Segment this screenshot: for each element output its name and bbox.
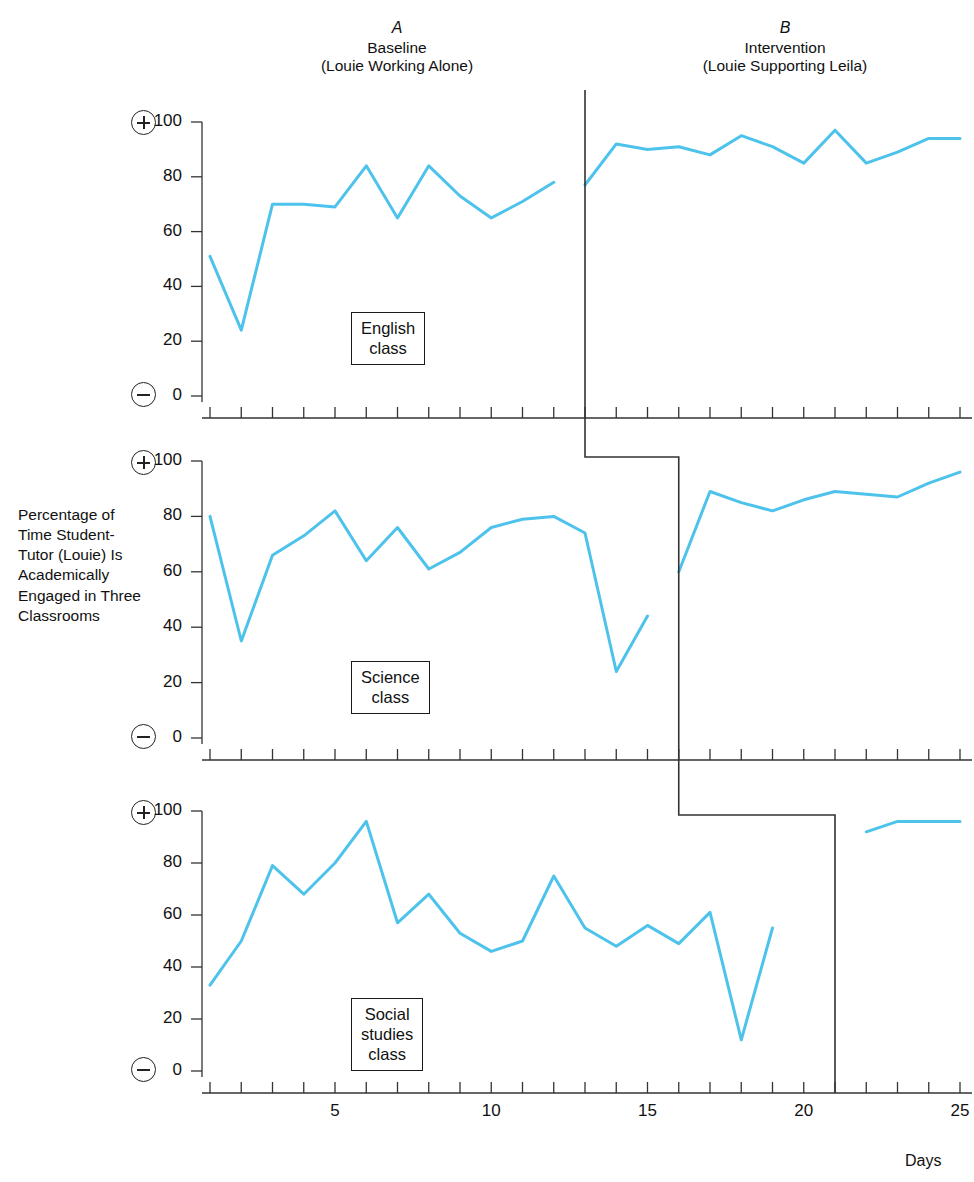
y-tick-label-20: 20 xyxy=(140,672,182,692)
y-tick-label-20: 20 xyxy=(140,330,182,350)
data-line-social-studies-class-intervention xyxy=(866,821,960,831)
y-tick-label-100: 100 xyxy=(140,450,182,470)
y-tick-label-100: 100 xyxy=(140,111,182,131)
data-line-english-class-baseline xyxy=(210,166,554,330)
y-tick-label-40: 40 xyxy=(140,616,182,636)
x-tick-label-10: 10 xyxy=(469,1101,513,1121)
x-tick-label-25: 25 xyxy=(938,1101,974,1121)
y-tick-label-20: 20 xyxy=(140,1008,182,1028)
data-line-science-class-baseline xyxy=(210,511,648,672)
y-tick-label-80: 80 xyxy=(140,852,182,872)
y-tick-label-40: 40 xyxy=(140,275,182,295)
y-tick-label-60: 60 xyxy=(140,904,182,924)
y-tick-label-60: 60 xyxy=(140,561,182,581)
y-tick-label-0: 0 xyxy=(140,1060,182,1080)
y-tick-label-0: 0 xyxy=(140,385,182,405)
data-line-science-class-intervention xyxy=(679,472,960,572)
chart-root: A Baseline (Louie Working Alone) B Inter… xyxy=(0,0,974,1182)
x-tick-label-15: 15 xyxy=(626,1101,670,1121)
data-line-english-class-intervention xyxy=(585,130,960,185)
y-tick-label-0: 0 xyxy=(140,727,182,747)
y-tick-label-80: 80 xyxy=(140,505,182,525)
x-tick-label-20: 20 xyxy=(782,1101,826,1121)
y-tick-label-40: 40 xyxy=(140,956,182,976)
y-tick-label-80: 80 xyxy=(140,166,182,186)
x-tick-label-5: 5 xyxy=(313,1101,357,1121)
data-line-social-studies-class-baseline xyxy=(210,821,773,1039)
y-tick-label-100: 100 xyxy=(140,800,182,820)
y-tick-label-60: 60 xyxy=(140,221,182,241)
